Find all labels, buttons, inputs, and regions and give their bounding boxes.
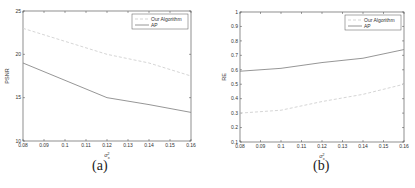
x-tick-label: 0.15: [379, 143, 389, 149]
y-tick-label: 0.7: [231, 52, 238, 58]
x-tick-label: 0.14: [358, 143, 368, 149]
chart-panel-a: 0.080.090.10.110.120.130.140.150.1610152…: [0, 0, 205, 160]
plot-area: [240, 12, 404, 142]
x-tick-label: 0.12: [102, 142, 112, 148]
y-tick-label: 0.6: [231, 67, 238, 73]
x-tick-label: 0.1: [278, 143, 285, 149]
y-tick-label: 0.9: [231, 23, 238, 29]
legend-label: AP: [364, 23, 371, 29]
y-tick-label: 15: [15, 94, 21, 100]
caption-b: (b): [313, 158, 329, 174]
plot-area: [23, 11, 191, 141]
y-axis-label: PSNR: [4, 68, 10, 83]
y-tick-label: 0.3: [231, 110, 238, 116]
y-tick-label: 25: [15, 8, 21, 14]
y-tick-label: 20: [15, 51, 21, 57]
y-tick-label: 0.8: [231, 38, 238, 44]
caption-a: (a): [92, 158, 108, 174]
x-tick-label: 0.09: [256, 143, 266, 149]
x-tick-label: 0.13: [338, 143, 348, 149]
x-tick-label: 0.16: [399, 143, 409, 149]
x-tick-label: 0.1: [62, 142, 69, 148]
y-tick-label: 0.4: [231, 95, 238, 101]
x-tick-label: 0.12: [317, 143, 327, 149]
x-tick-label: 0.09: [39, 142, 49, 148]
y-tick-label: 10: [15, 138, 21, 144]
y-tick-label: 0.5: [231, 81, 238, 87]
y-axis-label: RE: [221, 73, 227, 81]
legend-label: AP: [151, 22, 158, 28]
y-tick-label: 0.1: [231, 139, 238, 145]
x-tick-label: 0.11: [81, 142, 91, 148]
x-tick-label: 0.15: [165, 142, 175, 148]
y-tick-label: 1: [235, 9, 238, 15]
x-tick-label: 0.14: [144, 142, 154, 148]
x-tick-label: 0.16: [186, 142, 196, 148]
chart-panel-b: 0.080.090.10.110.120.130.140.150.160.10.…: [205, 0, 415, 160]
re-line-chart: 0.080.090.10.110.120.130.140.150.160.10.…: [205, 0, 415, 160]
psnr-line-chart: 0.080.090.10.110.120.130.140.150.1610152…: [0, 0, 205, 160]
y-tick-label: 0.2: [231, 124, 238, 130]
x-tick-label: 0.13: [123, 142, 133, 148]
x-tick-label: 0.11: [297, 143, 307, 149]
